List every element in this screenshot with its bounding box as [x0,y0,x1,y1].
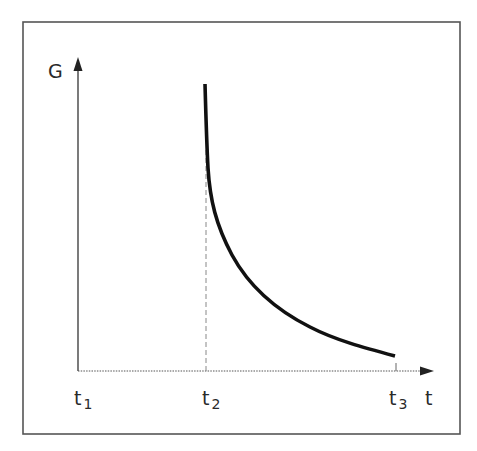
x-axis-label: t [425,389,432,408]
tick-label-t1: t1 [74,389,92,408]
diagram-canvas [0,0,477,451]
y-axis-label: G [48,62,63,81]
x-axis-arrow-icon [420,367,434,376]
y-axis-arrow-icon [74,57,83,71]
figure: G t1 t2 t3 t [0,0,477,451]
tick-label-t3: t3 [389,389,407,408]
g-curve [205,84,395,356]
tick-label-t2: t2 [202,389,220,408]
figure-frame [23,22,460,434]
